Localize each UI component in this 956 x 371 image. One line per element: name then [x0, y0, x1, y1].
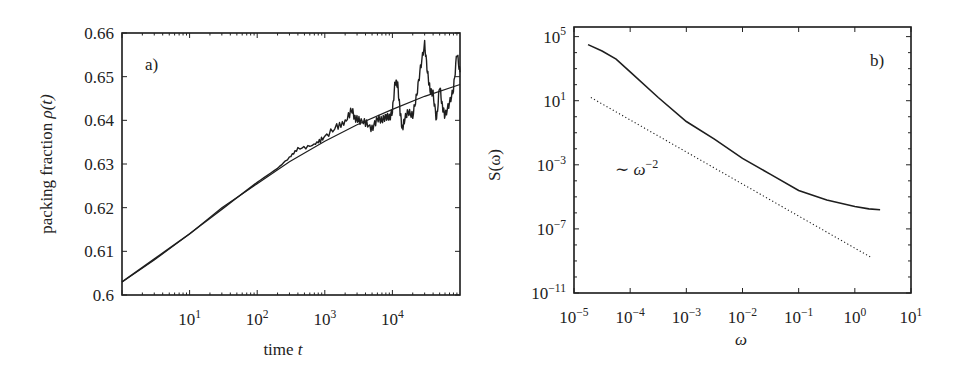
y-tick-label: 10−11: [531, 282, 566, 303]
y-tick-label: 105: [543, 25, 566, 46]
panel-b-x-tick-labels: 10−510−410−310−210−1100101: [559, 306, 922, 327]
x-tick-label: 10−5: [559, 306, 589, 327]
x-tick-label: 101: [178, 308, 201, 329]
panel-b-y-axis-label: S(ω): [485, 149, 504, 181]
panel-b-label: b): [870, 51, 884, 70]
panel-a-ticks: [122, 33, 460, 295]
panel-b-x-axis-label: ω: [735, 330, 747, 349]
x-tick-label: 101: [900, 306, 923, 327]
panel-a-label: a): [145, 55, 158, 74]
x-tick-label: 10−2: [728, 306, 758, 327]
panel-a-x-axis-label: time t: [263, 340, 303, 359]
panel-a-packing-fraction-chart: 101102103104 0.60.610.620.630.640.650.66…: [37, 24, 460, 359]
panel-a-plot-area: [122, 40, 460, 281]
panel-a-y-tick-labels: 0.60.610.620.630.640.650.66: [84, 24, 114, 305]
y-tick-label: 0.65: [84, 68, 114, 87]
y-tick-label: 101: [543, 90, 566, 111]
y-tick-label: 0.64: [84, 111, 114, 130]
y-tick-label: 10−3: [537, 154, 567, 175]
panel-b-omega-power-annotation: ∼ ω−2: [615, 157, 658, 179]
y-tick-label: 0.6: [93, 286, 114, 305]
panel-a-x-tick-labels: 101102103104: [178, 308, 404, 329]
x-tick-label: 10−4: [616, 306, 646, 327]
panel-b-spectrum-chart: 10−510−410−310−210−1100101 10510110−310−…: [485, 25, 923, 349]
series-spectrum: [588, 45, 880, 210]
y-tick-label: 0.61: [84, 242, 114, 261]
y-tick-label: 0.63: [84, 155, 114, 174]
panel-b-plot-area: [588, 45, 880, 258]
x-tick-label: 10−3: [672, 306, 702, 327]
panel-b-y-tick-labels: 10510110−310−710−11: [531, 25, 566, 303]
panel-a-y-axis-label: packing fraction ρ(t): [37, 94, 56, 234]
x-tick-label: 102: [246, 308, 269, 329]
panel-a-frame: [122, 33, 460, 295]
y-tick-label: 0.66: [84, 24, 114, 43]
x-tick-label: 104: [381, 308, 404, 329]
x-tick-label: 10−1: [784, 306, 814, 327]
x-tick-label: 100: [843, 306, 866, 327]
y-tick-label: 0.62: [84, 199, 114, 218]
y-tick-label: 10−7: [537, 218, 567, 239]
figure: 101102103104 0.60.610.620.630.640.650.66…: [0, 0, 956, 371]
x-tick-label: 103: [313, 308, 336, 329]
